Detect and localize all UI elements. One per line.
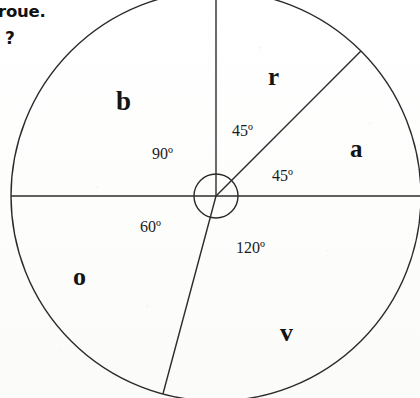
- angle-label-60: 60º: [140, 219, 161, 235]
- radius-line-lower-left-diagonal: [163, 196, 216, 394]
- spinner-wheel-diagram: [0, 0, 420, 398]
- sector-label-o: o: [73, 264, 86, 290]
- angle-label-45-lower: 45º: [272, 168, 293, 184]
- angle-label-90: 90º: [152, 146, 173, 162]
- sector-label-a: a: [350, 136, 363, 161]
- angle-label-45-upper: 45º: [232, 123, 253, 139]
- sector-label-r: r: [268, 64, 279, 89]
- sector-label-v: v: [280, 320, 293, 346]
- sector-label-b: b: [116, 88, 131, 115]
- prompt-line-1: roue.: [0, 2, 46, 21]
- worksheet-page: roue. ? b r a v o 90º 45º 45º 120º 60º: [0, 0, 420, 398]
- wheel-geometry: [11, 0, 420, 398]
- prompt-line-2: ?: [5, 28, 15, 48]
- angle-label-120: 120º: [236, 240, 265, 256]
